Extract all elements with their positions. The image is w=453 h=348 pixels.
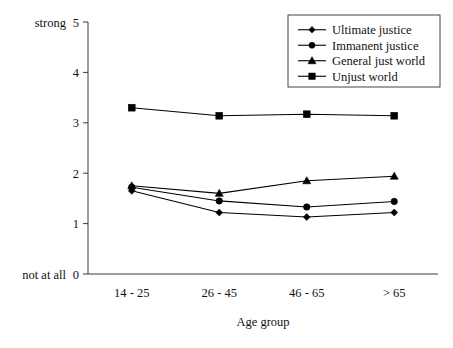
marker-square — [391, 112, 398, 119]
series-unjust-world — [128, 104, 397, 119]
series-polyline — [132, 187, 395, 207]
marker-circle — [391, 198, 397, 204]
marker-diamond — [303, 214, 310, 221]
series-layer — [128, 104, 399, 220]
x-axis: 14 - 2526 - 4546 - 65> 65 — [88, 274, 438, 300]
legend-label: General just world — [332, 54, 426, 68]
y-axis: 012345strongnot at all — [22, 16, 88, 282]
marker-square — [128, 104, 135, 111]
x-axis-title: Age group — [236, 315, 289, 329]
axis-titles: Age group — [236, 315, 289, 329]
marker-triangle — [390, 172, 398, 179]
x-tick-label: > 65 — [383, 286, 406, 300]
marker-diamond — [216, 209, 223, 216]
marker-diamond — [391, 209, 398, 216]
y-axis-low-anchor-label: not at all — [22, 268, 66, 282]
x-tick-label: 26 - 45 — [202, 286, 237, 300]
series-immanent-justice — [129, 184, 398, 210]
y-axis-high-anchor-label: strong — [35, 16, 67, 30]
legend-marker-circle — [309, 42, 315, 48]
legend-label: Immanent justice — [332, 39, 419, 53]
y-tick-label: 3 — [73, 116, 79, 130]
y-tick-label: 4 — [73, 66, 80, 80]
marker-square — [216, 112, 223, 119]
y-tick-label: 2 — [73, 167, 79, 181]
chart-legend: Ultimate justiceImmanent justiceGeneral … — [288, 15, 440, 87]
legend-label: Ultimate justice — [332, 23, 412, 37]
x-tick-label: 14 - 25 — [114, 286, 149, 300]
y-tick-label: 0 — [73, 268, 79, 282]
chart-container: 012345strongnot at all 14 - 2526 - 4546 … — [0, 0, 453, 348]
series-polyline — [132, 176, 395, 193]
marker-circle — [304, 204, 310, 210]
marker-square — [303, 111, 310, 118]
line-chart-figure: 012345strongnot at all 14 - 2526 - 4546 … — [0, 0, 453, 348]
y-tick-label: 1 — [73, 217, 79, 231]
y-tick-label: 5 — [73, 16, 79, 30]
x-tick-label: 46 - 65 — [289, 286, 324, 300]
marker-circle — [216, 198, 222, 204]
series-polyline — [132, 108, 395, 116]
legend-marker-square — [309, 73, 315, 79]
legend-label: Unjust world — [332, 70, 398, 84]
